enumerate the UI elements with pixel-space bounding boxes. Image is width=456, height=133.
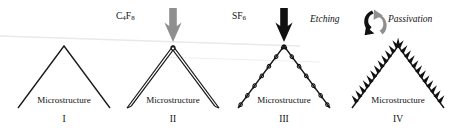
stage-4-panel	[340, 4, 456, 130]
stage-2-panel	[118, 4, 226, 130]
stage-3-panel	[230, 4, 335, 130]
process-diagram: C4F8 SF6 Etching Passivation Microstruct…	[0, 0, 456, 133]
stage-1-panel	[6, 40, 116, 130]
